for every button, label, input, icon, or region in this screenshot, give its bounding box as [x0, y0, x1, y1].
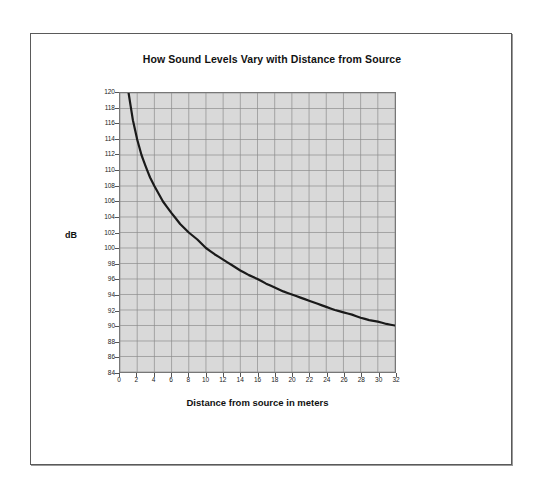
y-tick-mark [115, 295, 119, 296]
y-tick-mark [115, 357, 119, 358]
y-tick-label: 120 [93, 89, 115, 96]
y-tick-label: 114 [93, 136, 115, 143]
y-tick-mark [115, 170, 119, 171]
y-tick-mark [115, 326, 119, 327]
y-tick-label: 94 [93, 292, 115, 299]
y-tick-label: 102 [93, 229, 115, 236]
y-axis-tick-labels: 8486889092949698100102104106108110112114… [91, 92, 115, 373]
y-tick-mark [115, 279, 119, 280]
sound-level-curve [120, 93, 395, 372]
y-tick-label: 104 [93, 214, 115, 221]
y-tick-mark [115, 154, 119, 155]
plot-area [119, 92, 396, 373]
y-tick-mark [115, 217, 119, 218]
screenshot-page: How Sound Levels Vary with Distance from… [0, 0, 540, 489]
x-tick-label: 32 [386, 377, 406, 384]
y-tick-mark [115, 342, 119, 343]
document-page-frame: How Sound Levels Vary with Distance from… [30, 33, 512, 465]
y-tick-label: 84 [93, 370, 115, 377]
y-tick-mark [115, 123, 119, 124]
y-tick-mark [115, 186, 119, 187]
y-tick-label: 118 [93, 104, 115, 111]
y-tick-label: 100 [93, 245, 115, 252]
y-tick-mark [115, 92, 119, 93]
y-tick-mark [115, 108, 119, 109]
y-tick-label: 86 [93, 354, 115, 361]
y-tick-label: 98 [93, 260, 115, 267]
y-tick-label: 112 [93, 151, 115, 158]
y-tick-label: 96 [93, 276, 115, 283]
y-tick-mark [115, 248, 119, 249]
y-tick-label: 108 [93, 182, 115, 189]
chart-title: How Sound Levels Vary with Distance from… [31, 53, 513, 65]
x-axis-tick-labels: 02468101214161820222426283032 [119, 377, 396, 391]
x-axis-title: Distance from source in meters [119, 397, 396, 408]
y-tick-label: 106 [93, 198, 115, 205]
y-tick-label: 90 [93, 323, 115, 330]
y-tick-label: 116 [93, 120, 115, 127]
y-tick-label: 92 [93, 307, 115, 314]
y-tick-label: 110 [93, 167, 115, 174]
y-axis-title: dB [65, 230, 77, 240]
y-tick-mark [115, 264, 119, 265]
y-tick-mark [115, 233, 119, 234]
y-tick-mark [115, 139, 119, 140]
y-tick-mark [115, 311, 119, 312]
y-tick-label: 88 [93, 339, 115, 346]
y-tick-mark [115, 201, 119, 202]
